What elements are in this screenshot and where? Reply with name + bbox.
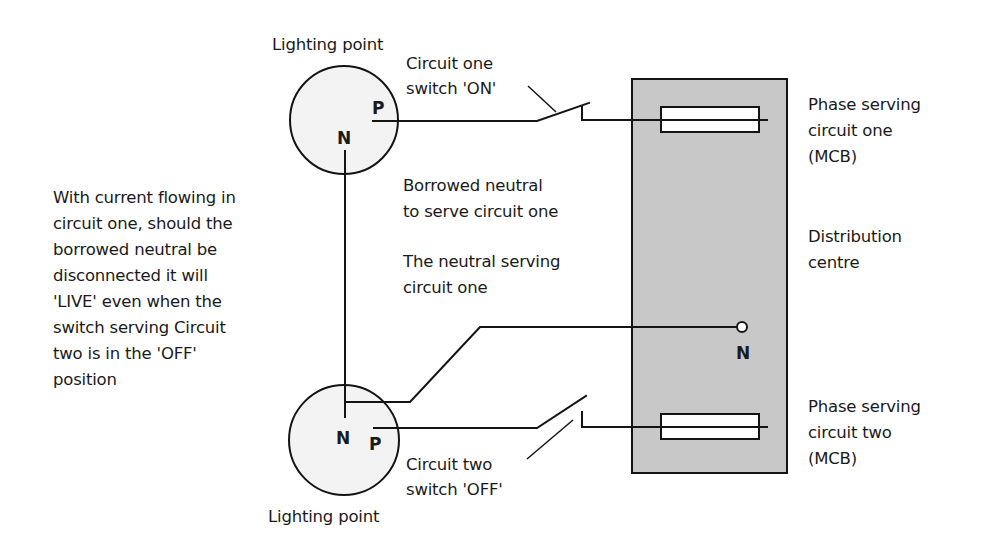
mcb-one-label-line1: Phase serving	[808, 95, 921, 114]
bottom-lamp-phase-terminal: P	[369, 434, 381, 454]
distribution-centre-label-line1: Distribution	[808, 227, 902, 246]
borrowed-neutral-wiring-diagram: P N N P N Lighting point Lighting point …	[0, 0, 989, 553]
switch-one-label-line2: switch 'ON'	[406, 79, 496, 98]
warning-note-line6: switch serving Circuit	[53, 318, 226, 337]
borrowed-neutral-label-line1: Borrowed neutral	[403, 176, 543, 195]
warning-note-line4: disconnected it will	[53, 266, 208, 285]
warning-note-line7: two is in the 'OFF'	[53, 344, 197, 363]
top-lamp-neutral-terminal: N	[337, 128, 351, 148]
warning-note-line2: circuit one, should the	[53, 214, 233, 233]
top-lighting-point-label: Lighting point	[272, 35, 384, 54]
distribution-centre-label-line2: centre	[808, 253, 860, 272]
neutral-serving-label-line2: circuit one	[403, 278, 487, 297]
distribution-neutral-label: N	[736, 343, 750, 363]
circuit-one-phase-wire	[373, 103, 589, 121]
switch-one-leader	[528, 86, 556, 112]
mcb-two-label-line3: (MCB)	[808, 449, 857, 468]
warning-note-line8: position	[53, 370, 117, 389]
switch-two-label-line2: switch 'OFF'	[406, 480, 503, 499]
mcb-one-label-line3: (MCB)	[808, 147, 857, 166]
switch-one-label-line1: Circuit one	[406, 54, 493, 73]
switch-two-label-line1: Circuit two	[406, 455, 492, 474]
bottom-lamp-neutral-terminal: N	[336, 428, 350, 448]
neutral-serving-label-line1: The neutral serving	[402, 252, 560, 271]
warning-note-line5: 'LIVE' even when the	[53, 292, 222, 311]
circuit-two-phase-wire	[374, 396, 586, 428]
mcb-one-label-line2: circuit one	[808, 121, 892, 140]
warning-note-line1: With current flowing in	[53, 188, 236, 207]
mcb-two-label-line2: circuit two	[808, 423, 892, 442]
top-lamp-phase-terminal: P	[372, 98, 384, 118]
switch-two-leader	[527, 420, 573, 459]
mcb-two-label-line1: Phase serving	[808, 397, 921, 416]
warning-note-line3: borrowed neutral be	[53, 240, 217, 259]
bottom-lighting-point-label: Lighting point	[268, 507, 380, 526]
borrowed-neutral-label-line2: to serve circuit one	[403, 202, 558, 221]
neutral-terminal	[737, 322, 747, 332]
